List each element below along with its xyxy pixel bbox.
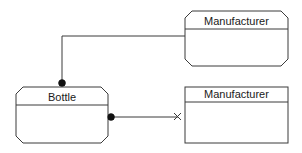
entity-manufacturer-bottom[interactable]: Manufacturer [185, 87, 288, 143]
entity-label: Manufacturer [204, 15, 269, 27]
entity-label: Bottle [48, 91, 76, 103]
entity-bottle[interactable]: Bottle [16, 87, 108, 143]
diagram-canvas: Manufacturer Bottle Manufacturer [0, 0, 302, 153]
filled-dot-icon [108, 114, 115, 121]
entity-label: Manufacturer [204, 88, 269, 100]
relationship-bottle-manufacturer-bottom [108, 113, 182, 121]
filled-dot-icon [59, 80, 66, 87]
relationship-bottle-manufacturer-top [59, 36, 186, 87]
entity-manufacturer-top[interactable]: Manufacturer [185, 11, 288, 66]
